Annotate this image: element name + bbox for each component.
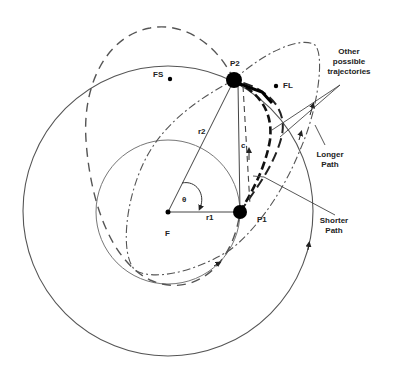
label-P2: P2 xyxy=(230,59,240,68)
focus-point-F xyxy=(166,210,171,215)
svg-text:trajectories: trajectories xyxy=(327,67,371,76)
bold-segment xyxy=(240,84,272,103)
label-P1: P1 xyxy=(257,215,267,224)
focus-point-FS xyxy=(168,77,172,81)
svg-text:Path: Path xyxy=(325,226,342,235)
svg-text:Longer: Longer xyxy=(316,150,343,159)
svg-text:Other: Other xyxy=(338,47,359,56)
trajectory-diagram: P2 P1 F FS FL r1 r2 c θ Other possible t… xyxy=(0,0,396,377)
chord-c-line xyxy=(238,84,240,212)
annotation-shorter-path: Shorter Path xyxy=(320,216,348,235)
label-FL: FL xyxy=(283,81,293,90)
point-P1 xyxy=(233,205,247,219)
label-theta: θ xyxy=(182,195,186,204)
annotation-longer-path: Longer Path xyxy=(316,150,343,169)
annotation-other-trajectories: Other possible trajectories xyxy=(327,47,371,76)
label-FS: FS xyxy=(153,70,164,79)
svg-text:Path: Path xyxy=(321,160,338,169)
label-F: F xyxy=(165,229,170,238)
focus-point-FL xyxy=(274,84,278,88)
leader-shorter xyxy=(264,177,335,215)
leader-longer xyxy=(315,125,325,145)
label-c: c xyxy=(241,141,246,150)
point-P2 xyxy=(226,72,242,88)
leader-other-2 xyxy=(280,85,340,137)
leader-shorter-tick xyxy=(253,176,264,177)
dashdot-arrow-2 xyxy=(299,133,301,140)
label-r1: r1 xyxy=(206,213,214,222)
label-r2: r2 xyxy=(198,127,206,136)
outer-orbit-arrow xyxy=(308,244,309,250)
svg-text:possible: possible xyxy=(333,57,366,66)
r2-line xyxy=(168,80,234,212)
svg-text:Shorter: Shorter xyxy=(320,216,348,225)
leader-other-1 xyxy=(272,85,340,130)
